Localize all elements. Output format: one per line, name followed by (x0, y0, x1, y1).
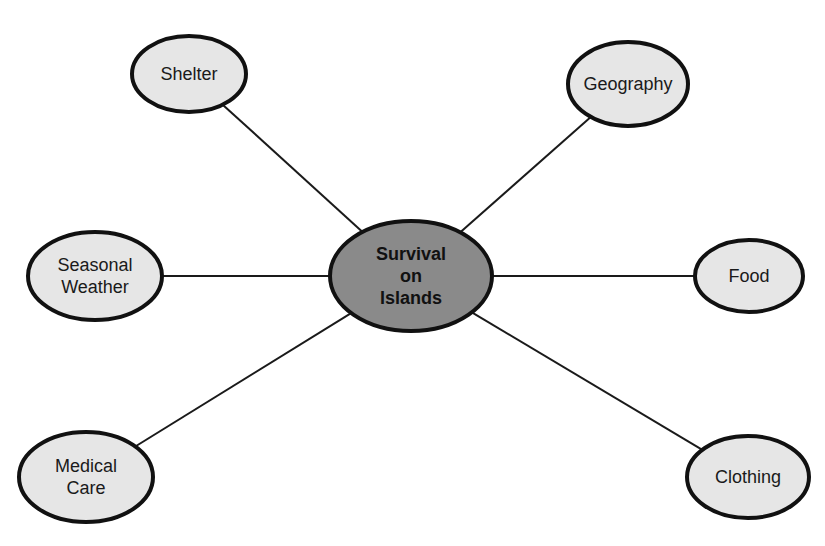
node-label: Food (728, 266, 769, 286)
node-label: Medical (55, 456, 117, 476)
connector-clothing (472, 312, 703, 449)
node-ellipse (19, 432, 153, 522)
node-ellipse (28, 232, 162, 320)
node-shelter: Shelter (132, 36, 246, 112)
node-seasonal-weather: SeasonalWeather (28, 232, 162, 320)
node-label: Seasonal (57, 255, 132, 275)
node-food: Food (695, 240, 803, 312)
connector-shelter (223, 105, 363, 232)
center-node: SurvivalonIslands (330, 221, 492, 331)
node-label: Survival (376, 244, 446, 264)
node-label: Shelter (160, 64, 217, 84)
node-clothing: Clothing (687, 436, 809, 518)
node-label: Care (66, 478, 105, 498)
node-label: on (400, 266, 422, 286)
node-geography: Geography (568, 42, 688, 126)
concept-map: ShelterGeographySeasonalWeatherFoodMedic… (0, 0, 825, 546)
node-medical-care: MedicalCare (19, 432, 153, 522)
node-label: Weather (61, 277, 129, 297)
node-label: Geography (583, 74, 672, 94)
connector-geography (460, 117, 590, 232)
node-label: Clothing (715, 467, 781, 487)
node-label: Islands (380, 288, 442, 308)
connector-medical-care (135, 313, 351, 446)
